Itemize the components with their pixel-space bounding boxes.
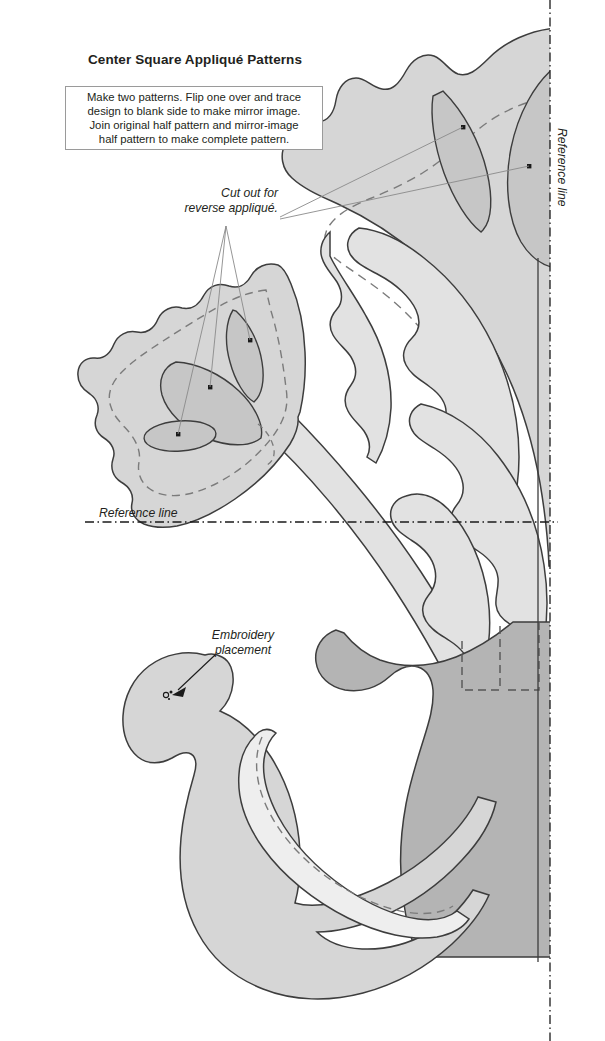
label-reference-line-horizontal: Reference line xyxy=(99,506,178,521)
page-title: Center Square Appliqué Patterns xyxy=(0,52,390,67)
label-reference-line-vertical: Reference line xyxy=(555,127,570,207)
annotation-cut-out-for-reverse-applique: Cut out for reverse appliqué. xyxy=(178,186,278,215)
pattern-sheet: Center Square Appliqué Patterns Make two… xyxy=(0,0,605,1041)
instruction-box: Make two patterns. Flip one over and tra… xyxy=(65,86,323,150)
left-flower-cutout-1-dot xyxy=(248,338,252,342)
annotation-embroidery-placement: Embroidery placement xyxy=(203,628,283,657)
instruction-text: Make two patterns. Flip one over and tra… xyxy=(81,90,307,147)
appliqu-pattern-artwork xyxy=(0,0,605,1041)
